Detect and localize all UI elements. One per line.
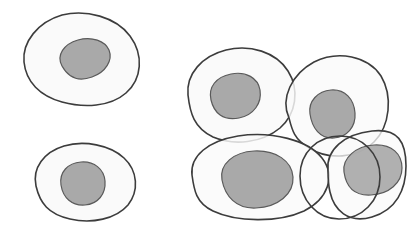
cell-upper-left [24, 13, 140, 105]
cell-nucleus [61, 162, 105, 205]
cell-nucleus [310, 90, 355, 138]
cell-lower-left [35, 143, 135, 220]
cell-illustration-figure [0, 0, 411, 228]
cell-nucleus [210, 73, 260, 118]
cluster-cell-upper-left [188, 48, 295, 142]
cluster-cell-lower-left [192, 135, 329, 220]
cell-diagram-canvas [0, 0, 411, 228]
cell-nucleus [222, 151, 293, 208]
